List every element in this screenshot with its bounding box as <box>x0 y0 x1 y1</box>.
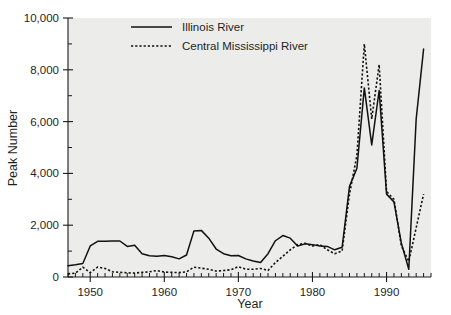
chart-figure: 02,0004,0006,0008,00010,000 195019601970… <box>0 0 451 315</box>
y-tick-label: 6,000 <box>30 116 59 128</box>
y-tick-label: 10,000 <box>24 12 59 24</box>
legend-label-illinois-river: Illinois River <box>182 21 244 33</box>
y-tick-label: 8,000 <box>30 64 59 76</box>
plot-area-background <box>68 18 431 277</box>
y-tick-label: 2,000 <box>30 219 59 231</box>
x-tick-label: 1950 <box>77 286 103 298</box>
x-tick-label: 1990 <box>374 286 400 298</box>
peak-number-line-chart: 02,0004,0006,0008,00010,000 195019601970… <box>0 0 451 315</box>
x-axis-title: Year <box>237 297 262 311</box>
y-tick-label: 4,000 <box>30 167 59 179</box>
x-tick-label: 1960 <box>152 286 178 298</box>
y-axis-title: Peak Number <box>6 110 20 186</box>
legend-label-central-mississippi-river: Central Mississippi River <box>182 40 308 52</box>
x-tick-label: 1980 <box>300 286 326 298</box>
y-tick-label: 0 <box>53 271 59 283</box>
